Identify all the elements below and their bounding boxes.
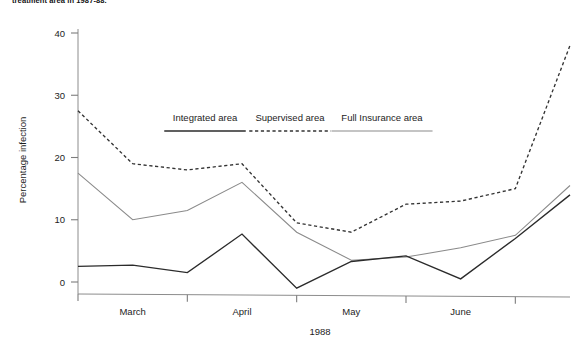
y-axis-title: Percentage infection bbox=[17, 117, 28, 204]
x-tick-layer: MarchAprilMayJune bbox=[78, 294, 515, 317]
y-tick-label: 20 bbox=[54, 152, 65, 163]
series-line-full-insurance-area bbox=[78, 173, 570, 260]
x-axis-line bbox=[78, 294, 570, 297]
y-tick-label: 30 bbox=[54, 90, 65, 101]
figure-container: treatment area in 1987-88. 010203040 Mar… bbox=[0, 0, 575, 355]
legend-layer: Integrated areaSupervised areaFull Insur… bbox=[164, 112, 432, 131]
x-tick-label: April bbox=[232, 306, 251, 317]
x-tick-label: March bbox=[119, 306, 145, 317]
series-line-supervised-area bbox=[78, 45, 570, 232]
y-tick-label: 40 bbox=[54, 28, 65, 39]
y-tick-layer: 010203040 bbox=[54, 28, 78, 288]
series-layer bbox=[78, 45, 570, 288]
y-tick-label: 0 bbox=[60, 277, 65, 288]
legend-label-integrated-area: Integrated area bbox=[173, 112, 238, 123]
x-tick-label: June bbox=[450, 306, 471, 317]
series-line-integrated-area bbox=[78, 195, 570, 288]
line-chart: 010203040 MarchAprilMayJune Integrated a… bbox=[0, 0, 575, 355]
x-tick-label: May bbox=[342, 306, 360, 317]
y-tick-label: 10 bbox=[54, 214, 65, 225]
legend-label-full-insurance-area: Full Insurance area bbox=[341, 112, 423, 123]
x-axis-title: 1988 bbox=[309, 326, 330, 337]
axis-layer bbox=[78, 29, 570, 297]
legend-label-supervised-area: Supervised area bbox=[255, 112, 325, 123]
label-layer: Percentage infection1988 bbox=[17, 117, 331, 337]
